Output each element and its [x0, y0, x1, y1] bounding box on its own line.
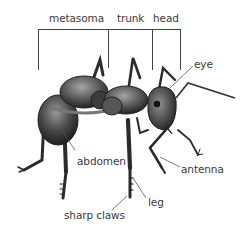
label-antenna: antenna	[181, 164, 224, 175]
section-brackets	[38, 29, 181, 70]
ant-eye	[154, 101, 160, 107]
ant-diagram: metasoma trunk head eye abdomen antenna …	[0, 0, 248, 231]
label-trunk: trunk	[117, 13, 144, 24]
label-abdomen: abdomen	[77, 156, 126, 167]
label-leg: leg	[148, 197, 164, 208]
ant-head	[148, 87, 176, 130]
label-eye: eye	[194, 59, 213, 70]
label-head: head	[153, 13, 179, 24]
ant-antenna-upper	[176, 83, 235, 98]
label-sharp-claws: sharp claws	[64, 210, 125, 221]
label-metasoma: metasoma	[49, 13, 104, 24]
ant-illustration	[0, 0, 248, 231]
